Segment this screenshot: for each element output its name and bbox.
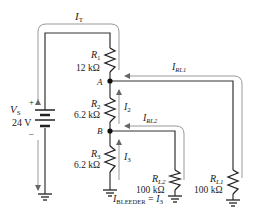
ground-icon (168, 196, 182, 202)
node-b-dot (107, 128, 112, 133)
voltage-divider-circuit: IT VS + – 24 V R1 12 kΩ A R2 6.2 kΩ B R3… (0, 0, 253, 216)
resistor-r2 (105, 98, 115, 122)
it-label: IT (74, 10, 84, 24)
ground-icon (38, 194, 52, 200)
r3-value: 6.2 kΩ (74, 160, 100, 170)
rl1-value: 100 kΩ (194, 185, 222, 195)
node-a-dot (107, 78, 112, 83)
vs-label: VS (10, 103, 21, 117)
battery-plus: + (29, 97, 34, 107)
i2-label: I2 (123, 101, 131, 114)
vs-value: 24 V (12, 117, 32, 128)
resistor-rl2 (170, 170, 180, 190)
battery-symbol (35, 110, 55, 126)
i3-label: I3 (123, 151, 131, 164)
irl2-label: IRL2 (142, 112, 158, 124)
ground-icon (226, 200, 240, 206)
r1-label: R1 (90, 49, 101, 62)
node-a-label: A (96, 77, 103, 87)
battery-minus: – (28, 128, 34, 138)
node-b-label: B (97, 126, 103, 136)
resistor-rl1 (228, 170, 238, 194)
irl1-label: IRL1 (171, 61, 186, 73)
r1-value: 12 kΩ (76, 63, 100, 73)
resistor-r1 (105, 48, 115, 72)
r2-value: 6.2 kΩ (74, 110, 100, 120)
resistor-r3 (105, 146, 115, 172)
current-flow-lines (38, 24, 242, 190)
